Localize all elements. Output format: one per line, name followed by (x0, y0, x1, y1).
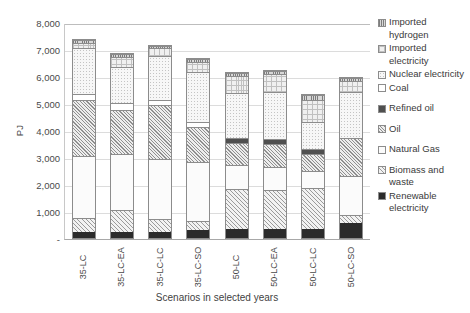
bar-segment[interactable] (340, 223, 362, 238)
bar-segment[interactable] (187, 230, 209, 238)
x-tick-label: 35-LC (78, 255, 88, 280)
bar-segment[interactable] (73, 48, 95, 93)
legend-label: Imported hydrogen (389, 16, 468, 41)
bar-segment[interactable] (340, 92, 362, 139)
bar-segment[interactable] (149, 48, 171, 56)
bar-segment[interactable] (73, 100, 95, 156)
bar-50-lc-ea[interactable] (263, 70, 287, 239)
bar-segment[interactable] (111, 103, 133, 110)
bar-35-lc[interactable] (72, 39, 96, 239)
x-tick-label: 50-LC (231, 255, 241, 280)
bar-segment[interactable] (187, 221, 209, 230)
x-tick-label: 35-LC-LC (155, 247, 165, 286)
legend: Imported hydrogenImported electricityNuc… (378, 16, 468, 216)
bar-segment[interactable] (149, 56, 171, 100)
y-tick-label: 1,000 (16, 208, 60, 218)
bar-segment[interactable] (226, 76, 248, 93)
legend-swatch-icon (378, 105, 386, 113)
bar-segment[interactable] (340, 138, 362, 175)
y-tick-label: 4,000 (16, 127, 60, 137)
legend-item[interactable]: Nuclear electricity (378, 68, 468, 81)
legend-item[interactable]: Imported electricity (378, 42, 468, 67)
x-tick-label: 35-LC-SO (193, 247, 203, 288)
bar-segment[interactable] (149, 219, 171, 231)
bar-segment[interactable] (264, 144, 286, 167)
bar-segment[interactable] (111, 210, 133, 232)
bar-segment[interactable] (226, 93, 248, 138)
bar-50-lc-so[interactable] (339, 77, 363, 239)
legend-swatch-icon (378, 84, 386, 92)
bar-segment[interactable] (111, 232, 133, 238)
x-tick: 50-LC (224, 240, 248, 292)
legend-item[interactable]: Imported hydrogen (378, 16, 468, 41)
bar-35-lc-ea[interactable] (110, 53, 134, 239)
bar-segment[interactable] (264, 229, 286, 238)
legend-label: Natural Gas (389, 143, 440, 156)
bar-segment[interactable] (302, 229, 324, 238)
bar-segment[interactable] (302, 154, 324, 171)
bar-segment[interactable] (149, 232, 171, 238)
x-tick: 35-LC (71, 240, 95, 292)
y-tick-label: 5,000 (16, 100, 60, 110)
x-tick: 50-LC-LC (301, 240, 325, 292)
x-tick: 35-LC-EA (109, 240, 133, 292)
bar-segment[interactable] (187, 72, 209, 121)
bar-segment[interactable] (187, 162, 209, 222)
bar-segment[interactable] (149, 105, 171, 159)
bar-segment[interactable] (73, 218, 95, 232)
bar-segment[interactable] (111, 154, 133, 209)
bar-segment[interactable] (302, 171, 324, 188)
legend-item[interactable]: Refined oil (378, 102, 468, 115)
x-tick-label: 50-LC-EA (269, 247, 279, 287)
legend-label: Biomass and waste (389, 164, 468, 189)
bar-segment[interactable] (111, 67, 133, 103)
legend-label: Refined oil (389, 102, 434, 115)
bar-segment[interactable] (73, 232, 95, 238)
x-axis-tick-labels: 35-LC35-LC-EA35-LC-LC35-LC-SO50-LC50-LC-… (64, 240, 370, 292)
legend-item[interactable]: Coal (378, 82, 468, 95)
legend-swatch-icon (378, 45, 386, 53)
y-tick-label: 8,000 (16, 19, 60, 29)
bar-segment[interactable] (302, 188, 324, 229)
bar-50-lc-lc[interactable] (301, 94, 325, 239)
bar-segment[interactable] (226, 229, 248, 238)
legend-label: Nuclear electricity (389, 68, 464, 81)
bar-35-lc-so[interactable] (186, 58, 210, 239)
bar-segment[interactable] (340, 81, 362, 92)
bar-segment[interactable] (187, 127, 209, 161)
bar-segment[interactable] (264, 92, 286, 139)
x-tick: 35-LC-SO (186, 240, 210, 292)
plot-area (64, 24, 370, 240)
bar-segment[interactable] (302, 122, 324, 149)
bar-segment[interactable] (264, 167, 286, 190)
bar-50-lc[interactable] (225, 72, 249, 239)
x-tick: 50-LC-EA (262, 240, 286, 292)
bar-segment[interactable] (226, 189, 248, 229)
legend-label: Oil (389, 123, 401, 136)
bar-segment[interactable] (149, 159, 171, 219)
x-tick-label: 35-LC-EA (116, 247, 126, 287)
bar-segment[interactable] (264, 74, 286, 92)
legend-item[interactable]: Oil (378, 123, 468, 136)
legend-item[interactable]: Biomass and waste (378, 164, 468, 189)
bar-group (65, 24, 370, 239)
y-axis-tick-labels: 8,0007,0006,0005,0004,0003,0002,0001,000… (16, 0, 60, 313)
legend-item[interactable]: Renewable electricity (378, 190, 468, 215)
bar-segment[interactable] (302, 100, 324, 122)
legend-swatch-icon (378, 146, 386, 154)
legend-item[interactable]: Natural Gas (378, 143, 468, 156)
bar-segment[interactable] (226, 165, 248, 189)
bar-35-lc-lc[interactable] (148, 45, 172, 239)
y-tick-label: 3,000 (16, 154, 60, 164)
y-tick-label: 6,000 (16, 73, 60, 83)
bar-segment[interactable] (187, 62, 209, 73)
bar-segment[interactable] (340, 176, 362, 215)
bar-segment[interactable] (264, 190, 286, 229)
legend-swatch-icon (378, 125, 386, 133)
bar-segment[interactable] (111, 110, 133, 154)
bar-segment[interactable] (111, 57, 133, 68)
bar-segment[interactable] (226, 143, 248, 165)
bar-segment[interactable] (340, 215, 362, 223)
bar-segment[interactable] (73, 156, 95, 218)
x-axis-title: Scenarios in selected years (64, 292, 370, 303)
